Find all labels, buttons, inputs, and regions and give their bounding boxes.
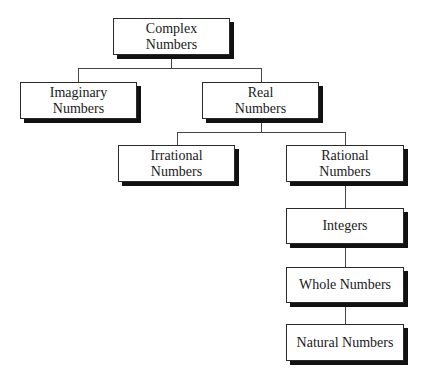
node-real-numbers: Real Numbers bbox=[202, 82, 319, 119]
node-label-line2: Numbers bbox=[319, 164, 370, 180]
connector-to-rational bbox=[345, 132, 346, 145]
node-irrational-numbers: Irrational Numbers bbox=[118, 145, 235, 182]
node-integers: Integers bbox=[286, 208, 404, 244]
connector-to-imaginary bbox=[78, 68, 79, 82]
node-complex-numbers: Complex Numbers bbox=[113, 18, 230, 55]
connector-real-down bbox=[261, 119, 262, 132]
node-whole-numbers: Whole Numbers bbox=[286, 267, 404, 303]
node-label-line2: Numbers bbox=[50, 101, 108, 117]
node-label-line2: Numbers bbox=[146, 37, 197, 53]
node-label-line1: Imaginary bbox=[50, 85, 108, 101]
node-label-line1: Complex bbox=[146, 21, 197, 37]
node-label-line1: Real bbox=[235, 85, 286, 101]
node-imaginary-numbers: Imaginary Numbers bbox=[20, 82, 137, 119]
node-label-line2: Numbers bbox=[150, 164, 202, 180]
node-label: Natural Numbers bbox=[297, 335, 394, 351]
node-label-line1: Irrational bbox=[150, 148, 202, 164]
node-label-line2: Numbers bbox=[235, 101, 286, 117]
connector-complex-down bbox=[171, 55, 172, 68]
node-label: Integers bbox=[322, 218, 367, 234]
connector-integers-to-whole bbox=[345, 244, 346, 267]
connector-real-branch bbox=[177, 132, 346, 133]
connector-to-irrational bbox=[177, 132, 178, 145]
connector-to-real bbox=[261, 68, 262, 82]
connector-rational-to-integers bbox=[345, 182, 346, 208]
connector-complex-branch bbox=[78, 68, 262, 69]
node-label: Whole Numbers bbox=[299, 277, 391, 293]
node-natural-numbers: Natural Numbers bbox=[286, 324, 404, 361]
node-label-line1: Rational bbox=[319, 148, 370, 164]
node-rational-numbers: Rational Numbers bbox=[286, 145, 404, 182]
connector-whole-to-natural bbox=[345, 303, 346, 324]
